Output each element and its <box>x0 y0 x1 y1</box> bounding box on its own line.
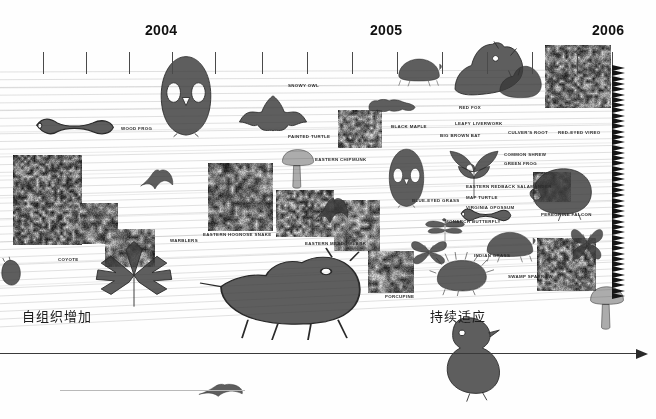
timeline-tick-1 <box>86 52 87 74</box>
secondary-faint-axis <box>60 390 245 391</box>
species-label-snowy-owl: SNOWY OWL <box>288 83 319 88</box>
species-label-red-fox: RED FOX <box>459 105 481 110</box>
timeline-tick-4 <box>215 52 216 74</box>
timeline-tick-11 <box>532 52 533 74</box>
species-label-culver-s-root: CULVER'S ROOT <box>508 130 548 135</box>
species-label-painted-turtle: PAINTED TURTLE <box>288 134 330 139</box>
year-label-2005: 2005 <box>370 22 402 38</box>
species-label-virginia-opossum: VIRGINIA OPOSSUM <box>466 205 515 210</box>
timeline-tick-7 <box>352 52 353 74</box>
species-label-eastern-redback-salamander: EASTERN REDBACK SALAMANDER <box>466 184 552 189</box>
leafy-liverwork <box>369 99 415 111</box>
species-label-warblers: WARBLERS <box>170 238 198 243</box>
timeline-tick-6 <box>307 52 308 74</box>
wood-frog <box>37 119 114 134</box>
species-label-black-maple: BLACK MAPLE <box>391 124 427 129</box>
species-label-map-turtle: MAP TURTLE <box>466 195 498 200</box>
species-label-blue-eyed-grass: BLUE-EYED GRASS <box>412 198 459 203</box>
annotation-left-note: 自组织增加 <box>22 306 92 325</box>
butterfly-black <box>411 242 446 264</box>
species-label-eastern-hognose-snake: EASTERN HOGNOSE SNAKE <box>203 232 272 237</box>
species-label-green-frog: GREEN FROG <box>504 161 537 166</box>
timeline-tick-12 <box>577 52 578 74</box>
main-axis-arrowhead <box>636 349 648 359</box>
species-label-wood-frog: WOOD FROG <box>121 126 152 131</box>
timeline-tick-0 <box>43 52 44 74</box>
maple-leaves <box>96 241 171 306</box>
year-label-2004: 2004 <box>145 22 177 38</box>
swallowtail <box>571 229 602 259</box>
species-label-porcupine: PORCUPINE <box>385 294 414 299</box>
slug-left <box>2 257 20 285</box>
timeline-tick-8 <box>397 52 398 74</box>
timeline-tick-10 <box>487 52 488 74</box>
species-label-eastern-chipmunk: EASTERN CHIPMUNK <box>315 157 366 162</box>
species-label-leafy-liverwork: LEAFY LIVERWORK <box>455 121 503 126</box>
infographic-canvas: 200420052006 WOOD FROGSNOWY OWLPAINTED T… <box>0 0 656 419</box>
snowy-owl <box>161 57 211 137</box>
species-label-peregrine-falcon: PEREGRINE FALCON <box>541 212 592 217</box>
timeline-tick-2 <box>129 52 130 74</box>
common-shrew-plant <box>450 151 498 198</box>
year-label-2006: 2006 <box>592 22 624 38</box>
main-time-axis <box>0 353 636 354</box>
warbler-bird <box>141 170 173 189</box>
eastern-chipmunk <box>282 150 313 189</box>
timeline-tick-9 <box>442 52 443 74</box>
coyote <box>200 248 360 340</box>
annotation-right-note: 持续适应 <box>430 306 486 325</box>
species-label-common-shrew: COMMON SHREW <box>504 152 546 157</box>
timeline-tick-3 <box>172 52 173 74</box>
blue-eyed-grass-bird <box>316 198 348 222</box>
species-label-swamp-sparrow: SWAMP SPARROW <box>508 274 553 279</box>
species-label-indian-grass: INDIAN GRASS <box>474 253 510 258</box>
convergence-arrowhead-43 <box>612 293 625 299</box>
species-label-red-eyed-vireo: RED-EYED VIREO <box>558 130 600 135</box>
specimen-illustrations-layer <box>0 0 656 419</box>
painted-turtle <box>399 59 442 86</box>
species-label-monarch-butterfly: MONARCH BUTTERFLY <box>445 219 501 224</box>
species-label-eastern-meadowlark: EASTERN MEADOWLARK <box>305 241 366 246</box>
timeline-tick-5 <box>262 52 263 74</box>
species-label-big-brown-bat: BIG BROWN BAT <box>440 133 481 138</box>
species-label-coyote: COYOTE <box>58 257 79 262</box>
peregrine-falcon <box>447 318 499 402</box>
big-brown-bat <box>239 96 306 131</box>
